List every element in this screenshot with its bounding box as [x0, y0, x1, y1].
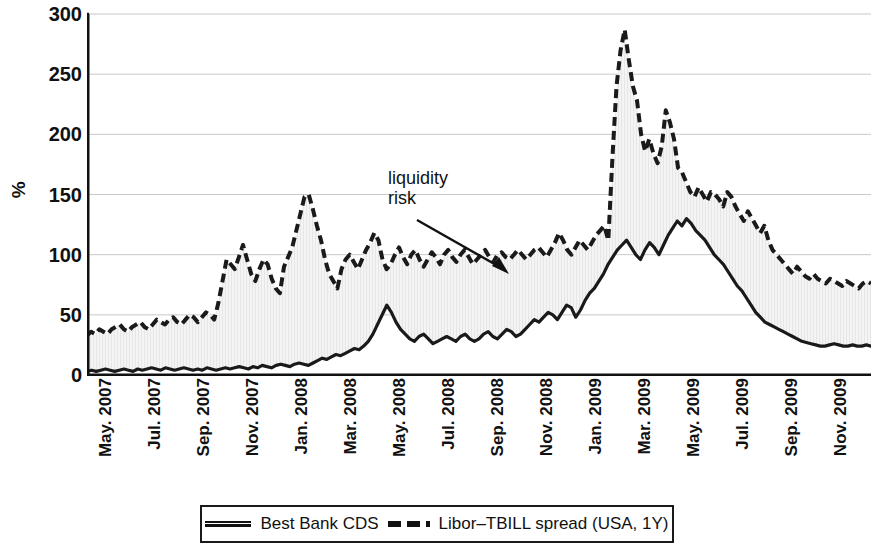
x-tick-label: Jan. 2008 — [292, 378, 312, 455]
x-tick-label: May. 2009 — [684, 378, 704, 457]
legend-swatch-dashed-icon — [388, 521, 430, 527]
y-tick-label: 0 — [24, 365, 82, 385]
annotation-line-1: liquidity — [388, 168, 448, 188]
y-tick-label: 200 — [24, 124, 82, 144]
x-tick-label: May. 2007 — [96, 378, 116, 457]
x-tick-label: Jul. 2007 — [145, 378, 165, 450]
y-tick-label: 250 — [24, 64, 82, 84]
x-tick-label: Jul. 2008 — [439, 378, 459, 450]
x-tick-label: Nov. 2007 — [243, 378, 263, 456]
x-tick-label: Mar. 2008 — [341, 378, 361, 455]
x-tick-label: Nov. 2009 — [831, 378, 851, 456]
x-tick-label: Sep. 2007 — [194, 378, 214, 456]
x-tick-label: Sep. 2009 — [782, 378, 802, 456]
legend-label-best-bank-cds: Best Bank CDS — [260, 514, 378, 534]
y-tick-label: 150 — [24, 185, 82, 205]
chart-figure: % 050100150200250300 liquidity ris — [0, 0, 871, 547]
x-tick-label: May. 2008 — [390, 378, 410, 457]
chart-legend: Best Bank CDS Libor–TBILL spread (USA, 1… — [200, 505, 674, 543]
x-tick-label: Jan. 2009 — [586, 378, 606, 455]
y-tick-label: 100 — [24, 245, 82, 265]
x-tick-label: Mar. 2009 — [635, 378, 655, 455]
liquidity-risk-band — [87, 30, 871, 372]
y-tick-label: 50 — [24, 305, 82, 325]
chart-svg — [87, 8, 871, 376]
annotation-liquidity-risk: liquidity risk — [388, 168, 448, 208]
legend-swatch-solid-icon — [205, 521, 251, 527]
y-axis-ticks: 050100150200250300 — [22, 0, 82, 390]
x-tick-label: Jul. 2009 — [733, 378, 753, 450]
y-tick-label: 300 — [24, 4, 82, 24]
plot-area — [87, 8, 871, 376]
legend-label-libor-tbill: Libor–TBILL spread (USA, 1Y) — [439, 514, 669, 534]
x-tick-label: Nov. 2008 — [537, 378, 557, 456]
x-tick-label: Sep. 2008 — [488, 378, 508, 456]
x-axis-ticks: May. 2007Jul. 2007Sep. 2007Nov. 2007Jan.… — [87, 378, 871, 498]
annotation-line-2: risk — [388, 188, 448, 208]
